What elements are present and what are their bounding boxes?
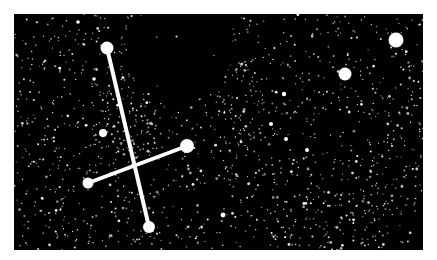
top-star	[101, 42, 114, 55]
fifth-star	[99, 129, 107, 137]
constellation-diagram	[14, 14, 423, 250]
star-e	[305, 148, 309, 152]
constellation-line-top-star-to-bottom-star	[107, 48, 149, 227]
left-star	[83, 178, 94, 189]
star-g	[76, 20, 80, 24]
background-starfield	[14, 14, 423, 250]
star-d	[221, 213, 226, 218]
upper-right-star	[389, 33, 404, 48]
constellation-stars	[83, 42, 195, 234]
star-f	[92, 77, 96, 81]
bottom-star	[143, 221, 155, 233]
star-a	[282, 92, 286, 96]
star-b	[269, 122, 273, 126]
star-field-panel	[14, 14, 423, 250]
right-star	[180, 139, 194, 153]
star-c	[284, 137, 288, 141]
middle-right-star	[339, 68, 352, 81]
